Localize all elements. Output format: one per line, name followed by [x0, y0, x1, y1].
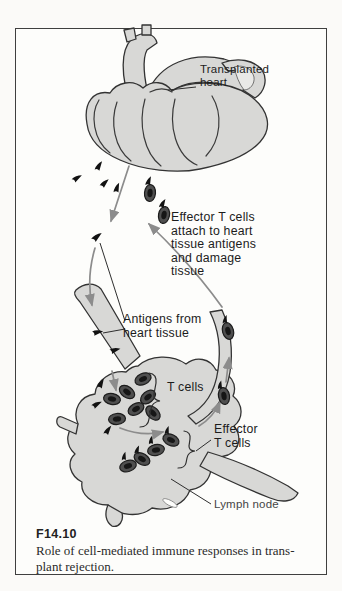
figure-caption: Role of cell-mediated immune responses i… — [36, 543, 326, 574]
antigen-icon — [71, 173, 82, 184]
effector-cells-at-heart — [143, 176, 171, 224]
antigens-from-heart-label: Antigens from heart tissue — [123, 313, 201, 340]
effector-attach-label: Effector T cells attach to heart tissue … — [171, 211, 256, 279]
antigen-icon — [91, 231, 102, 242]
antigen-icon — [94, 161, 104, 171]
effector-t-cell-icon — [143, 176, 156, 202]
arrow-heart-to-antigens — [111, 166, 129, 221]
lymph-node-left-stub — [57, 417, 78, 434]
transplanted-heart-label: Transplanted heart — [200, 63, 269, 89]
exit-vessel-bottom-right — [200, 452, 298, 501]
effector-t-cell-icon — [157, 199, 171, 224]
heart-illustration — [86, 25, 267, 171]
diagram-canvas — [0, 0, 342, 591]
aorta-branch-shape — [124, 28, 136, 42]
effector-t-cells-label: Effector T cells — [214, 423, 258, 450]
figure-number: F14.10 — [36, 527, 77, 541]
aorta-branch-shape — [142, 25, 151, 35]
antigen-icon — [99, 179, 108, 189]
t-cells-label: T cells — [167, 381, 204, 395]
lymph-node-label: Lymph node — [214, 498, 279, 511]
